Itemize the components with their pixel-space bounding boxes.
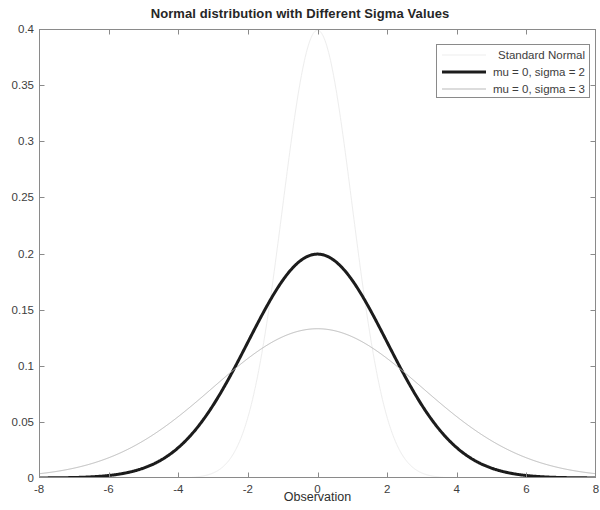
legend-swatch-icon	[442, 49, 486, 61]
y-tick-label: 0.35	[0, 79, 34, 91]
legend-entry-standard-normal: Standard Normal	[437, 46, 591, 63]
y-tick-label: 0.25	[0, 191, 34, 203]
y-tick-label: 0.2	[0, 248, 34, 260]
legend-label: mu = 0, sigma = 3	[486, 83, 591, 95]
legend-label: Standard Normal	[486, 49, 591, 61]
y-tick-label: 0.15	[0, 304, 34, 316]
y-tick-label: 0.3	[0, 135, 34, 147]
legend-swatch-icon	[442, 66, 486, 78]
y-tick-label: 0.4	[0, 23, 34, 35]
legend-entry-sigma-2: mu = 0, sigma = 2	[437, 63, 591, 80]
y-tick-label: 0.05	[0, 416, 34, 428]
y-tick-label: 0	[0, 472, 34, 484]
legend-label: mu = 0, sigma = 2	[486, 66, 591, 78]
legend-swatch-icon	[442, 83, 486, 95]
chart-figure: Normal distribution with Different Sigma…	[0, 0, 600, 510]
x-axis-label: Observation	[39, 490, 596, 504]
legend: Standard Normal mu = 0, sigma = 2 mu = 0…	[436, 44, 590, 98]
legend-entry-sigma-3: mu = 0, sigma = 3	[437, 80, 591, 97]
y-tick-label: 0.1	[0, 360, 34, 372]
